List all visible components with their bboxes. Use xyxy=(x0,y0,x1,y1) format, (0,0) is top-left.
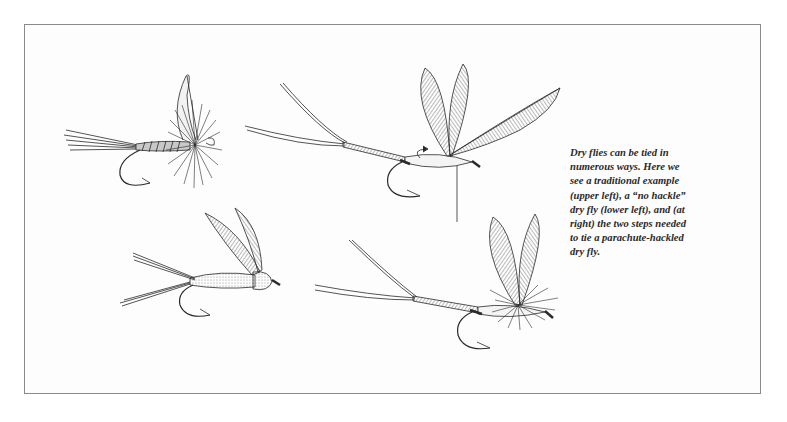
no-hackle-dry-fly xyxy=(120,208,280,316)
caption-line: see a traditional example xyxy=(570,174,760,188)
caption-line: numerous ways. Here we xyxy=(570,160,760,174)
caption-line: dry fly (lower left), and (at xyxy=(570,203,760,217)
caption-line: to tie a parachute-hackled xyxy=(570,231,760,245)
traditional-dry-fly xyxy=(64,75,222,188)
caption-line: dry fly. xyxy=(570,245,760,259)
parachute-step-2 xyxy=(315,214,558,349)
caption-line: Dry flies can be tied in xyxy=(570,146,760,160)
caption-line: (upper left), a “no hackle” xyxy=(570,189,760,203)
caption-line: right) the two steps needed xyxy=(570,217,760,231)
parachute-step-1 xyxy=(245,64,560,222)
figure-caption: Dry flies can be tied in numerous ways. … xyxy=(570,146,760,260)
